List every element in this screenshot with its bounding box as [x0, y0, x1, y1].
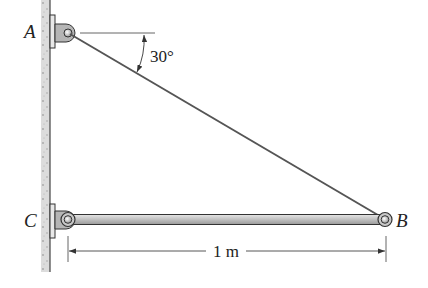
wall: [41, 0, 50, 272]
wall-body: [41, 0, 50, 272]
point-label-a: A: [22, 21, 36, 42]
dimension-label: 1 m: [213, 242, 239, 261]
boom-bar: [68, 215, 385, 225]
support-c-plate: [50, 204, 55, 238]
dimension-cb: 1 m: [68, 236, 386, 262]
angle-arc: [137, 35, 144, 72]
cable-ab: [70, 34, 383, 218]
pin-c-icon: [64, 216, 72, 224]
pin-b-icon: [381, 216, 389, 224]
point-label-c: C: [24, 210, 37, 231]
point-label-b: B: [396, 210, 408, 231]
angle-label: 30°: [150, 47, 174, 66]
support-a: [50, 15, 75, 48]
boom-cb: [61, 213, 392, 227]
support-a-plate: [50, 15, 55, 48]
statics-diagram: 30° 1 m A C B: [0, 0, 428, 288]
pin-a-icon: [64, 29, 72, 37]
